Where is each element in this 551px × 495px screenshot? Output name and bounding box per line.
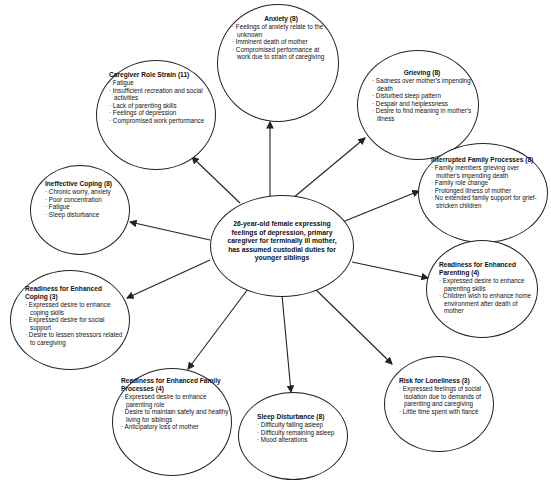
list-item: Insufficient recreation and social activ… (109, 87, 213, 102)
list-item: Prolonged illness of mother (431, 187, 543, 195)
arrow-to-ineffective-coping (130, 222, 210, 240)
list-item: No extended family support for grief-str… (431, 194, 543, 209)
list-item: Lack of parenting skills (109, 102, 213, 110)
node-items: Chronic worry, anxiety Poor concentratio… (45, 188, 127, 218)
node-items: Expressed desire to enhance coping skill… (25, 301, 125, 347)
node-items: Fatigue Insufficient recreation and soci… (109, 79, 213, 125)
arrow-to-readiness-enhanced-parenting (352, 262, 428, 278)
node-items: Expressed feelings of social isolation d… (399, 385, 487, 415)
list-item: Desire to lessen stressors related to ca… (25, 331, 125, 346)
node-title: Ineffective Coping (8) (45, 180, 127, 188)
center-node: 26-year-old female expressing feelings o… (210, 195, 354, 297)
list-item: Compromised performance at work due to s… (232, 46, 330, 61)
node-items: Expressed desire to enhance parenting ro… (121, 393, 231, 431)
list-item: Feelings of depression (109, 109, 213, 117)
list-item: Expressed feelings of social isolation d… (399, 385, 487, 408)
arrow-to-readiness-enhanced-coping (127, 260, 210, 298)
list-item: Family members grieving over mother's im… (431, 164, 543, 179)
list-item: Desire to maintain safety and healthy li… (121, 408, 231, 423)
list-item: Little time spent with fiancé (399, 408, 487, 416)
list-item: Difficulty falling asleep (257, 421, 343, 429)
list-item: Expressed desire to enhance coping skill… (25, 301, 125, 316)
list-item: Expressed desire for social support (25, 316, 125, 331)
node-items: Family members grieving over mother's im… (431, 164, 543, 210)
list-item: Despair and helplessness (372, 100, 472, 108)
node-ineffective-coping: Ineffective Coping (8) Chronic worry, an… (30, 165, 130, 255)
list-item: Expressed desire to enhance parenting ro… (121, 393, 231, 408)
node-caregiver-role-strain: Caregiver Role Strain (11) Fatigue Insuf… (96, 60, 216, 170)
node-anxiety: Anxiety (8) Feelings of anxiety relate t… (217, 4, 339, 122)
list-item: Fatigue (45, 203, 127, 211)
node-items: Difficulty falling asleep Difficulty rem… (257, 421, 343, 444)
list-item: Anticipatory loss of mother (121, 423, 231, 431)
node-title: Risk for Loneliness (3) (399, 377, 487, 385)
list-item: Desire to find meaning in mother's illne… (372, 107, 472, 122)
list-item: Poor concentration (45, 196, 127, 204)
list-item: Family role change (431, 179, 543, 187)
node-items: Expressed desire to enhance parenting sk… (439, 277, 535, 315)
node-title: Readiness for Enhanced Parenting (4) (439, 261, 535, 277)
node-items: Feelings of anxiety relate to the unknow… (232, 23, 330, 61)
node-title: Caregiver Role Strain (11) (109, 71, 213, 79)
list-item: Difficulty remaining asleep (257, 429, 343, 437)
node-readiness-enhanced-coping: Readiness for Enhanced Coping (3) Expres… (10, 270, 130, 370)
node-interrupted-family-processes: Interrupted Family Processes (8) Family … (418, 143, 548, 243)
list-item: Expressed desire to enhance parenting sk… (439, 277, 535, 292)
node-grieving: Grieving (8) Sadness over mother's impen… (357, 50, 479, 160)
list-item: Chronic worry, anxiety (45, 188, 127, 196)
node-title: Interrupted Family Processes (8) (431, 156, 543, 164)
node-items: Sadness over mother's impending death Di… (372, 77, 472, 123)
arrow-to-readiness-enhanced-family-processes (188, 289, 248, 369)
node-title: Grieving (8) (372, 69, 472, 77)
list-item: Sleep disturbance (45, 211, 127, 219)
node-title: Anxiety (8) (232, 15, 330, 23)
node-title: Sleep Disturbance (8) (257, 413, 343, 421)
node-title: Readiness for Enhanced Family Processes … (121, 377, 231, 393)
list-item: Feelings of anxiety relate to the unknow… (232, 23, 330, 38)
node-risk-for-loneliness: Risk for Loneliness (3) Expressed feelin… (384, 356, 494, 452)
arrow-to-sleep-disturbance (282, 295, 291, 392)
arrow-to-caregiver-role-strain (192, 157, 240, 203)
node-readiness-enhanced-family-processes: Readiness for Enhanced Family Processes … (112, 368, 232, 476)
list-item: Fatigue (109, 79, 213, 87)
node-title: Readiness for Enhanced Coping (3) (25, 285, 125, 301)
list-item: Sadness over mother's impending death (372, 77, 472, 92)
node-sleep-disturbance: Sleep Disturbance (8) Difficulty falling… (238, 392, 348, 480)
arrow-to-risk-for-loneliness (309, 283, 392, 364)
list-item: Children wish to enhance home environmen… (439, 292, 535, 315)
list-item: Compromised work performance (109, 117, 213, 125)
list-item: Imminent death of mother (232, 38, 330, 46)
arrow-to-grieving (293, 138, 365, 198)
node-readiness-enhanced-parenting: Readiness for Enhanced Parenting (4) Exp… (426, 240, 538, 338)
list-item: Disturbed sleep pattern (372, 92, 472, 100)
center-node-text: 26-year-old female expressing feelings o… (211, 220, 353, 263)
list-item: Mood alterations (257, 436, 343, 444)
